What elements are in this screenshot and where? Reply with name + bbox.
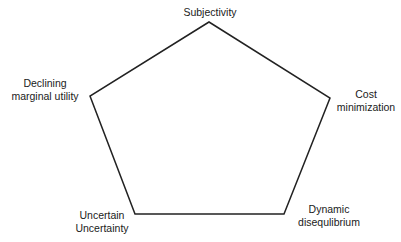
label-line: Subjectivity [170,6,250,19]
vertex-label-declining-marginal-utility: Declining marginal utility [0,77,90,103]
label-line: Uncertainty [62,222,142,235]
label-line: Cost [330,88,401,101]
vertex-label-subjectivity: Subjectivity [170,6,250,19]
vertex-label-dynamic-disequilibrium: Dynamic disequlibrium [284,203,374,229]
label-line: disequlibrium [284,216,374,229]
vertex-label-uncertain-uncertainty: Uncertain Uncertainty [62,209,142,235]
label-line: Dynamic [284,203,374,216]
label-line: minimization [330,101,401,114]
vertex-label-cost-minimization: Cost minimization [330,88,401,114]
label-line: Uncertain [62,209,142,222]
pentagon-diagram: Subjectivity Declining marginal utility … [0,0,401,242]
label-line: Declining [0,77,90,90]
pentagon-outline [90,22,330,214]
label-line: marginal utility [0,90,90,103]
